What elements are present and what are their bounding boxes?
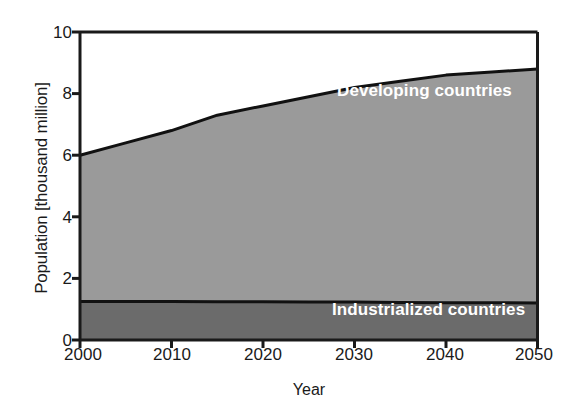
plot-area	[0, 0, 578, 411]
area-developing-countries	[80, 69, 538, 303]
series-label-developing: Developing countries	[337, 81, 512, 101]
population-projection-chart: Population [thousand million] 10 8 6 4 2…	[0, 0, 578, 411]
series-label-industrialized: Industrialized countries	[332, 300, 525, 320]
x-axis-title: Year	[80, 381, 538, 399]
